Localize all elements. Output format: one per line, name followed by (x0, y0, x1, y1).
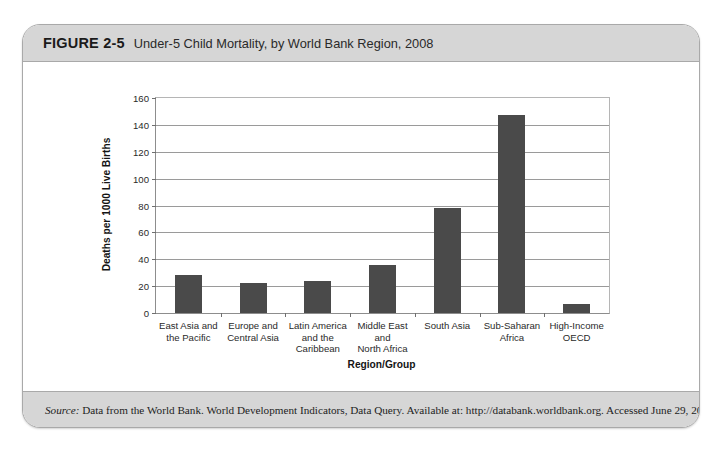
source-note: Source: Data from the World Bank. World … (45, 404, 700, 416)
x-tick-label: East Asia andthe Pacific (156, 320, 221, 343)
x-tick-label-line: Africa (480, 332, 545, 344)
bar (434, 208, 461, 313)
figure-footer: Source: Data from the World Bank. World … (23, 391, 699, 427)
bar (563, 304, 590, 313)
y-tick-label: 140 (133, 119, 149, 130)
y-tick-label: 0 (144, 308, 149, 319)
x-tick-mark (480, 313, 481, 317)
source-label: Source: (45, 404, 79, 416)
bar (240, 283, 267, 313)
y-tick-label: 120 (133, 146, 149, 157)
plot-frame: 020406080100120140160East Asia andthe Pa… (155, 97, 610, 314)
chart-area: Deaths per 1000 Live Births 020406080100… (23, 62, 699, 393)
figure-number: FIGURE 2-5 (43, 35, 125, 51)
x-tick-label-line: Europe and (221, 320, 286, 332)
bar (175, 275, 202, 313)
y-tick-mark (152, 98, 156, 99)
x-tick-label-line: High-Income (544, 320, 609, 332)
y-tick-mark (152, 286, 156, 287)
x-tick-label-line: OECD (544, 332, 609, 344)
y-tick-mark (152, 259, 156, 260)
x-tick-mark (285, 313, 286, 317)
x-tick-label-line: Caribbean (285, 343, 350, 355)
x-tick-mark (544, 313, 545, 317)
bar (304, 281, 331, 313)
y-tick-mark (152, 313, 156, 314)
x-axis-title: Region/Group (155, 359, 608, 370)
x-tick-label-line: Central Asia (221, 332, 286, 344)
x-tick-mark (221, 313, 222, 317)
y-tick-label: 20 (138, 281, 149, 292)
x-tick-label-line: Latin America (285, 320, 350, 332)
x-tick-label-line: and (350, 332, 415, 344)
x-tick-label-line: South Asia (415, 320, 480, 332)
y-tick-label: 160 (133, 93, 149, 104)
x-tick-mark (350, 313, 351, 317)
x-tick-mark (415, 313, 416, 317)
x-tick-label-line: Sub-Saharan (480, 320, 545, 332)
y-tick-label: 100 (133, 173, 149, 184)
x-tick-label-line: North Africa (350, 343, 415, 355)
gridline (156, 206, 609, 207)
gridline (156, 232, 609, 233)
figure-header: FIGURE 2-5 Under-5 Child Mortality, by W… (23, 25, 699, 62)
y-axis-title-text: Deaths per 1000 Live Births (102, 138, 113, 272)
gridline (156, 152, 609, 153)
y-tick-mark (152, 179, 156, 180)
source-text: Data from the World Bank. World Developm… (79, 404, 700, 416)
y-tick-mark (152, 152, 156, 153)
y-tick-label: 60 (138, 227, 149, 238)
x-tick-label-line: East Asia and (156, 320, 221, 332)
gridline (156, 259, 609, 260)
figure-card: FIGURE 2-5 Under-5 Child Mortality, by W… (22, 24, 700, 428)
x-tick-label: Sub-SaharanAfrica (480, 320, 545, 343)
x-tick-label: High-IncomeOECD (544, 320, 609, 343)
y-axis-title: Deaths per 1000 Live Births (99, 97, 115, 312)
figure-title: Under-5 Child Mortality, by World Bank R… (134, 36, 434, 51)
bar (369, 265, 396, 313)
x-tick-label: South Asia (415, 320, 480, 332)
x-tick-label-line: and the (285, 332, 350, 344)
figure-screenshot: FIGURE 2-5 Under-5 Child Mortality, by W… (0, 0, 722, 450)
x-tick-label: Europe andCentral Asia (221, 320, 286, 343)
gridline (156, 125, 609, 126)
x-tick-label-line: Middle East (350, 320, 415, 332)
y-tick-mark (152, 232, 156, 233)
gridline (156, 179, 609, 180)
y-tick-label: 40 (138, 254, 149, 265)
y-tick-mark (152, 125, 156, 126)
y-tick-label: 80 (138, 200, 149, 211)
x-tick-label-line: the Pacific (156, 332, 221, 344)
y-tick-mark (152, 206, 156, 207)
bar (498, 115, 525, 313)
x-tick-label: Middle EastandNorth Africa (350, 320, 415, 355)
x-tick-label: Latin Americaand theCaribbean (285, 320, 350, 355)
